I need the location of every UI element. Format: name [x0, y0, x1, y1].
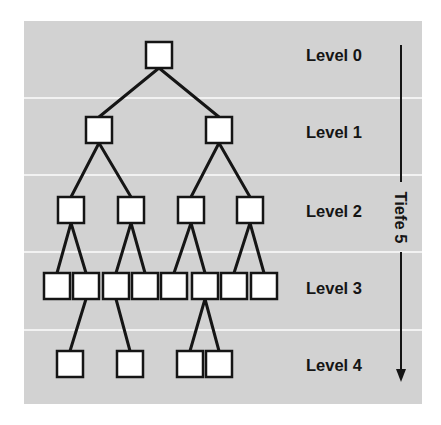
- tree-edges: [57, 68, 264, 351]
- tree-diagram: [0, 0, 441, 425]
- tree-edge: [71, 143, 99, 197]
- tree-node-level-2: [178, 197, 204, 223]
- level-4-label: Level 4: [306, 355, 362, 375]
- tree-edge: [71, 223, 86, 273]
- tree-edge: [99, 68, 159, 117]
- tree-node-level-3: [221, 273, 247, 299]
- tree-edge: [190, 299, 205, 351]
- tree-node-level-2: [237, 197, 263, 223]
- tree-node-level-0: [146, 42, 172, 68]
- tree-node-level-3: [161, 273, 187, 299]
- tree-node-level-2: [58, 197, 84, 223]
- tree-edge: [250, 223, 264, 273]
- tree-edge: [219, 143, 250, 197]
- tree-edge: [131, 223, 145, 273]
- tree-node-level-4: [57, 351, 83, 377]
- arrow-down-icon: [396, 369, 406, 382]
- tree-node-level-3: [192, 273, 218, 299]
- tree-edge: [70, 299, 86, 351]
- depth-label-text: Tiefe 5: [392, 191, 411, 243]
- tree-node-level-3: [44, 273, 70, 299]
- tree-node-level-1: [86, 117, 112, 143]
- level-3-label: Level 3: [306, 278, 362, 298]
- tree-node-level-4: [177, 351, 203, 377]
- tree-edge: [159, 68, 219, 117]
- level-2-label: Level 2: [306, 201, 362, 221]
- tree-edge: [116, 299, 130, 351]
- tree-edge: [191, 143, 219, 197]
- tree-node-level-4: [117, 351, 143, 377]
- tree-node-level-4: [206, 351, 232, 377]
- tree-node-level-3: [103, 273, 129, 299]
- tree-edge: [57, 223, 71, 273]
- depth-label: Tiefe 5: [391, 183, 411, 251]
- level-0-label: Level 0: [306, 45, 362, 65]
- tree-node-level-3: [132, 273, 158, 299]
- tree-edge: [116, 223, 131, 273]
- tree-node-level-2: [118, 197, 144, 223]
- tree-edge: [99, 143, 131, 197]
- level-1-label: Level 1: [306, 122, 362, 142]
- tree-node-level-1: [206, 117, 232, 143]
- tree-edge: [205, 299, 219, 351]
- tree-node-level-3: [73, 273, 99, 299]
- tree-edge: [234, 223, 250, 273]
- tree-edge: [191, 223, 205, 273]
- tree-node-level-3: [251, 273, 277, 299]
- tree-edge: [174, 223, 191, 273]
